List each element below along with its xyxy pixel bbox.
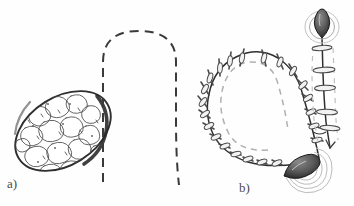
tumor-mass: [1, 75, 125, 193]
drain-knot-lower: [284, 148, 332, 193]
surgical-illustration-svg: [0, 0, 354, 206]
panel-a-group: [1, 31, 179, 193]
closure-connector: [313, 132, 326, 134]
inner-tissue-dashed-line: [221, 62, 288, 150]
vertical-sutured-line: [312, 38, 340, 148]
vertical-suture-5: [320, 125, 340, 132]
knot-lower-teardrop: [284, 154, 320, 178]
incision-dashed-line: [103, 31, 179, 185]
suture-knot-bulges: [198, 52, 323, 167]
panel-label-a: a): [7, 176, 17, 192]
vertical-suture-3: [314, 85, 335, 91]
vertical-suture-2: [313, 67, 335, 74]
panel-label-b: b): [239, 180, 250, 196]
figure-root: a) b): [0, 0, 354, 206]
vertical-suture-4: [316, 109, 337, 115]
panel-b-group: [198, 9, 340, 193]
drain-knot-upper: [305, 9, 339, 43]
vertical-closure-line: [322, 38, 330, 148]
suture-marks-group: [198, 49, 323, 165]
vertical-line-tail: [326, 140, 335, 148]
knot-upper-teardrop: [314, 9, 329, 38]
vertical-suture-1: [312, 45, 332, 52]
